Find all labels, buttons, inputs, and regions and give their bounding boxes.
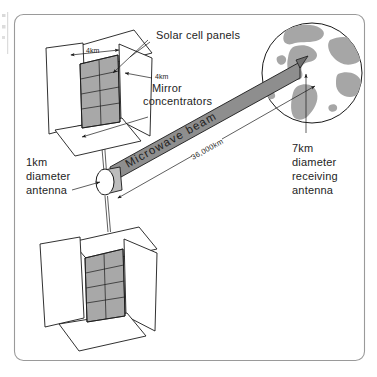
panel-width-label: 4km <box>86 47 100 54</box>
microwave-transmit-antenna <box>96 167 122 195</box>
transmit-antenna-label-line3: antenna <box>26 184 68 196</box>
receiving-antenna-label-line2: diameter <box>292 156 337 168</box>
solar-cell-panels-label: Solar cell panels <box>156 29 240 41</box>
transmit-antenna-label-line1: 1km <box>26 156 47 168</box>
page-edge-artifacts <box>2 12 8 54</box>
receiving-antenna-label-line1: 7km <box>292 142 313 154</box>
transmit-antenna-label-line2: diameter <box>26 170 71 182</box>
mirror-panel-left-lower <box>40 237 84 327</box>
figure-page: Microwave beam 36,000km <box>0 0 377 377</box>
receiving-antenna-label-line3: receiving <box>292 170 338 182</box>
panel-height-label: 4km <box>155 73 169 80</box>
leader-transmit-antenna <box>72 182 100 190</box>
distance-label: 36,000km <box>190 137 225 162</box>
solar-power-satellite-lower <box>40 227 157 351</box>
solar-power-satellite-diagram: Microwave beam 36,000km <box>0 0 377 377</box>
mirror-concentrators-label-line1: Mirror <box>152 82 182 94</box>
mirror-panel-left <box>46 43 86 134</box>
receiving-antenna-label-line4: antenna <box>292 184 334 196</box>
distance-label-group: 36,000km <box>190 137 225 162</box>
mirror-concentrators-label-line2: concentrators <box>143 95 213 107</box>
earth-globe <box>262 23 364 123</box>
